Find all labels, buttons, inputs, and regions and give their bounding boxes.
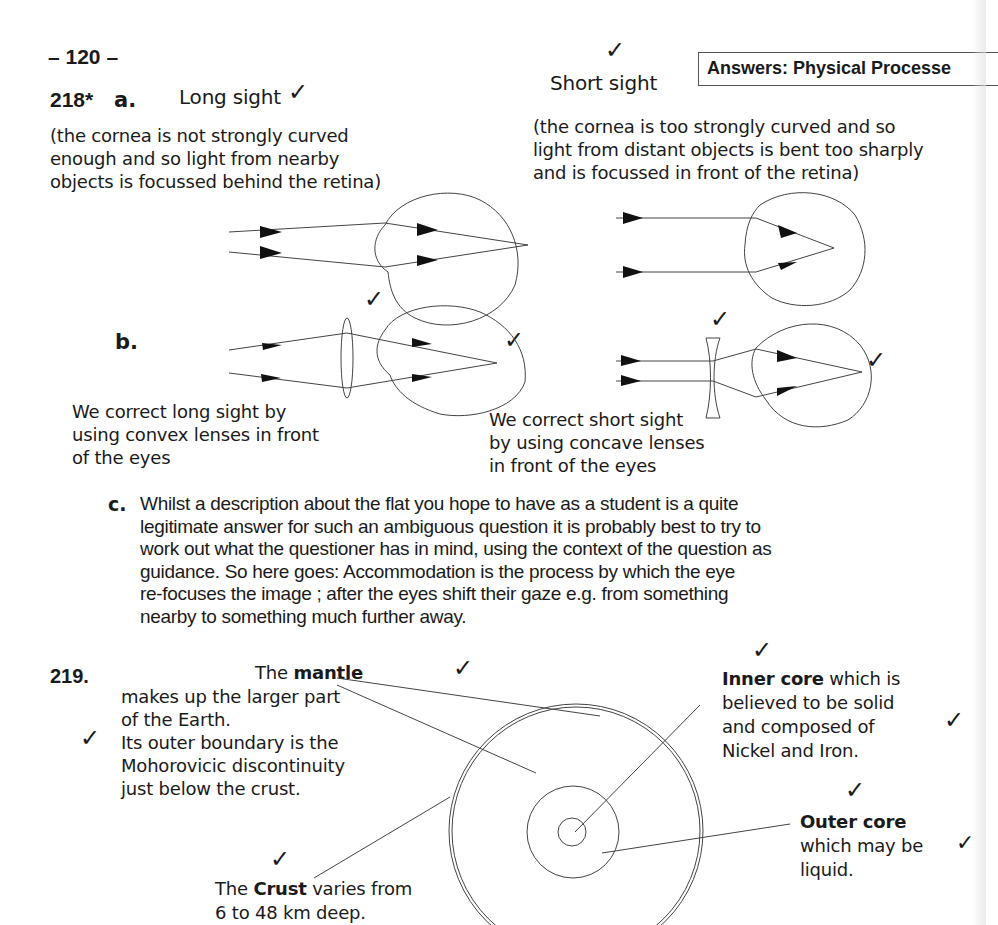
earth-cross-section-diagram <box>314 678 790 925</box>
short-sight-eye-diagram <box>616 193 865 306</box>
convex-lens-correction-diagram <box>229 306 525 416</box>
page-edge-shadow <box>972 0 986 925</box>
concave-lens-correction-diagram <box>616 324 871 427</box>
long-sight-eye-diagram <box>229 193 528 325</box>
